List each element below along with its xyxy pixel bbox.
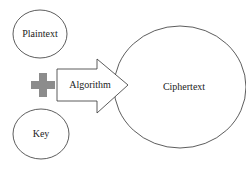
plaintext-label: Plaintext (22, 28, 58, 39)
ciphertext-label: Ciphertext (163, 81, 205, 92)
algorithm-label: Algorithm (69, 79, 111, 90)
ciphertext-node: Ciphertext (114, 26, 246, 148)
plaintext-node: Plaintext (13, 10, 67, 58)
plus-icon (31, 73, 55, 97)
key-label: Key (33, 128, 50, 139)
encryption-diagram: Ciphertext Algorithm Plaintext Key (0, 0, 246, 171)
key-node: Key (13, 109, 69, 159)
